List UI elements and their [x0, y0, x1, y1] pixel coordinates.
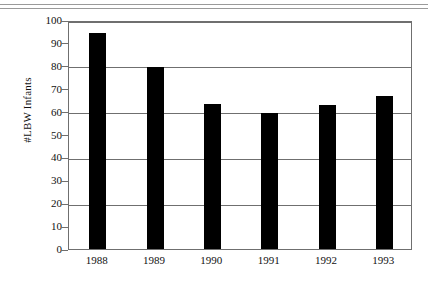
bar-1993: [376, 96, 393, 249]
y-tick-label-80: 80: [28, 61, 62, 72]
y-tick-mark-50: [61, 135, 68, 136]
gridline-100: [69, 22, 411, 23]
bar-1988: [89, 33, 106, 249]
x-tick-label-1990: 1990: [183, 255, 239, 266]
y-tick-mark-30: [61, 181, 68, 182]
y-tick-mark-90: [61, 43, 68, 44]
y-tick-label-60: 60: [28, 107, 62, 118]
gridline-20: [69, 205, 411, 206]
y-tick-mark-100: [61, 21, 68, 22]
bar-1989: [147, 67, 164, 249]
y-tick-label-70: 70: [28, 84, 62, 95]
x-tick-label-1989: 1989: [126, 255, 182, 266]
bar-1992: [319, 105, 336, 249]
y-tick-mark-40: [61, 158, 68, 159]
y-tick-label-50: 50: [28, 130, 62, 141]
gridline-40: [69, 159, 411, 160]
y-tick-mark-0: [61, 250, 68, 251]
y-tick-label-10: 10: [28, 221, 62, 232]
x-tick-label-1991: 1991: [241, 255, 297, 266]
y-tick-mark-60: [61, 112, 68, 113]
y-tick-mark-80: [61, 66, 68, 67]
bar-1990: [204, 104, 221, 249]
x-tick-label-1992: 1992: [298, 255, 354, 266]
gridline-80: [69, 67, 411, 68]
gridline-60: [69, 113, 411, 114]
y-tick-label-90: 90: [28, 38, 62, 49]
y-tick-label-20: 20: [28, 198, 62, 209]
bar-chart-figure: #LBW Infants 0102030405060708090100 1988…: [0, 0, 428, 284]
y-tick-mark-20: [61, 204, 68, 205]
bar-1991: [261, 113, 278, 249]
x-tick-label-1993: 1993: [355, 255, 411, 266]
x-tick-label-1988: 1988: [69, 255, 125, 266]
plot-area: [68, 21, 412, 250]
y-tick-label-40: 40: [28, 152, 62, 163]
y-tick-label-0: 0: [28, 244, 62, 255]
y-tick-mark-10: [61, 227, 68, 228]
y-tick-mark-70: [61, 89, 68, 90]
y-tick-label-100: 100: [28, 15, 62, 26]
y-tick-label-30: 30: [28, 175, 62, 186]
